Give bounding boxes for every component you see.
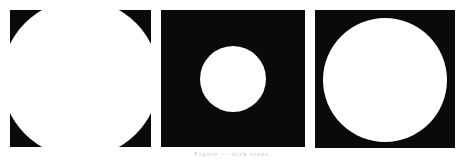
panel-medium-disk xyxy=(315,10,455,148)
small-disk xyxy=(200,46,266,112)
panel-small-disk xyxy=(161,10,305,147)
medium-disk xyxy=(323,18,447,142)
panel-large-disk xyxy=(10,10,151,147)
figure-caption: Figure — disk sizes xyxy=(0,150,463,158)
large-disk xyxy=(10,10,151,147)
